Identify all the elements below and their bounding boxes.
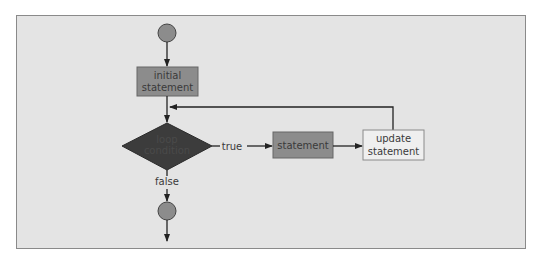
update-label-line1: update — [376, 133, 411, 144]
false-label: false — [155, 176, 179, 187]
condition-label-line2: condition — [144, 145, 190, 156]
initial-statement-node: initial statement — [137, 67, 198, 96]
update-statement-node: update statement — [363, 130, 424, 160]
update-label-line2: statement — [368, 146, 420, 157]
true-label: true — [222, 141, 243, 152]
loop-condition-node: loop condition — [122, 123, 212, 170]
flowchart: initial statement loop condition true st… — [0, 0, 544, 264]
statement-node: statement — [273, 132, 333, 158]
statement-label: statement — [277, 140, 329, 151]
condition-label-line1: loop — [156, 134, 177, 145]
initial-label-line2: statement — [142, 82, 194, 93]
start-node — [158, 24, 176, 42]
initial-label-line1: initial — [154, 70, 182, 81]
edge-update-loopback — [170, 107, 393, 130]
end-node — [158, 202, 176, 220]
